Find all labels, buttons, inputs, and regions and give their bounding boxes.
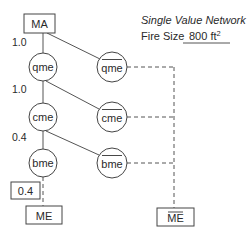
node-ma: MA bbox=[24, 14, 55, 33]
node-qme-bar: qme bbox=[97, 52, 127, 82]
svg-text:bme: bme bbox=[101, 158, 122, 170]
svg-text:MA: MA bbox=[31, 18, 48, 30]
svg-text:ME: ME bbox=[36, 210, 53, 222]
prob-ma-qme: 1.0 bbox=[12, 36, 27, 48]
prob-qme-cme: 1.0 bbox=[12, 83, 27, 95]
fire-size-label: Fire Size bbox=[141, 30, 184, 42]
svg-text:ME: ME bbox=[167, 212, 184, 224]
node-qme: qme bbox=[29, 53, 57, 81]
prob-cme-bme: 0.4 bbox=[12, 131, 27, 143]
result-probability-box: 0.4 bbox=[11, 182, 40, 199]
node-cme: cme bbox=[29, 103, 57, 131]
svg-text:qme: qme bbox=[32, 61, 53, 73]
svg-text:bme: bme bbox=[32, 157, 53, 169]
svg-text:cme: cme bbox=[102, 112, 123, 124]
node-me: ME bbox=[26, 206, 62, 224]
single-value-network-diagram: Single Value Network Fire Size 800 ft2 1… bbox=[0, 0, 250, 238]
fire-size-value: 800 ft2 bbox=[189, 29, 221, 42]
edge-qme-cme-bar bbox=[46, 81, 99, 109]
node-bme-bar: bme bbox=[97, 148, 127, 178]
edge-cme-bme-bar bbox=[46, 131, 99, 155]
diagram-title: Single Value Network bbox=[141, 14, 246, 26]
svg-text:cme: cme bbox=[33, 111, 54, 123]
svg-text:qme: qme bbox=[101, 62, 122, 74]
node-bme: bme bbox=[29, 149, 57, 177]
node-cme-bar: cme bbox=[97, 102, 127, 132]
svg-text:0.4: 0.4 bbox=[18, 185, 33, 197]
edge-ma-qme-bar bbox=[47, 33, 100, 59]
node-me-bar: ME bbox=[157, 208, 194, 226]
